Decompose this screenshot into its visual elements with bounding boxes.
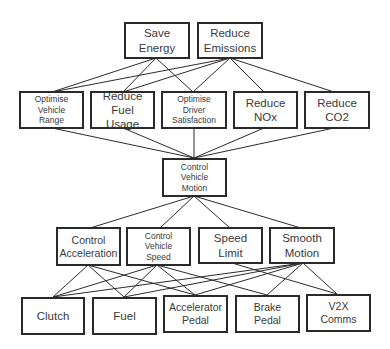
node-control-acceleration: Control Acceleration <box>56 227 121 266</box>
node-brake-pedal: Brake Pedal <box>235 295 300 333</box>
edge-optimise-vehicle-range-control-vehicle-motion <box>52 128 194 158</box>
node-control-vehicle-speed: Control Vehicle Speed <box>126 227 191 266</box>
node-reduce-emissions: Reduce Emissions <box>197 22 263 59</box>
node-speed-limit: Speed Limit <box>198 227 263 264</box>
node-save-energy: Save Energy <box>124 22 190 59</box>
node-reduce-fuel-usage: Reduce Fuel Usage <box>90 91 155 129</box>
edge-reduce-emissions-optimise-driver-satisfaction <box>193 58 230 92</box>
node-clutch: Clutch <box>21 297 85 335</box>
edge-smooth-motion-clutch <box>53 263 303 297</box>
node-reduce-co2: Reduce CO2 <box>304 91 370 129</box>
edge-control-vehicle-motion-control-acceleration <box>90 196 194 228</box>
node-accelerator-pedal: Accelerator Pedal <box>163 295 228 333</box>
edge-smooth-motion-fuel <box>124 263 303 297</box>
edge-reduce-co2-control-vehicle-motion <box>194 128 334 158</box>
node-fuel: Fuel <box>92 297 157 335</box>
edge-reduce-emissions-reduce-co2 <box>230 58 334 92</box>
edge-control-vehicle-motion-smooth-motion <box>194 196 301 228</box>
node-optimise-driver-satisfaction: Optimise Driver Satisfaction <box>161 91 227 129</box>
edge-reduce-fuel-usage-control-vehicle-motion <box>123 128 194 158</box>
node-smooth-motion: Smooth Motion <box>269 227 335 264</box>
edge-save-energy-optimise-driver-satisfaction <box>156 58 193 92</box>
edge-smooth-motion-brake-pedal <box>267 263 303 295</box>
edge-reduce-nox-control-vehicle-motion <box>194 128 264 158</box>
node-control-vehicle-motion: Control Vehicle Motion <box>162 158 227 197</box>
node-optimise-vehicle-range: Optimise Vehicle Range <box>19 91 84 129</box>
edge-control-acceleration-clutch <box>53 265 88 297</box>
node-v2x-comms: V2X Comms <box>306 294 371 332</box>
hierarchy-diagram: Save Energy Reduce Emissions Optimise Ve… <box>0 0 390 349</box>
node-reduce-nox: Reduce NOx <box>233 91 298 129</box>
edge-control-vehicle-motion-speed-limit <box>194 196 230 228</box>
